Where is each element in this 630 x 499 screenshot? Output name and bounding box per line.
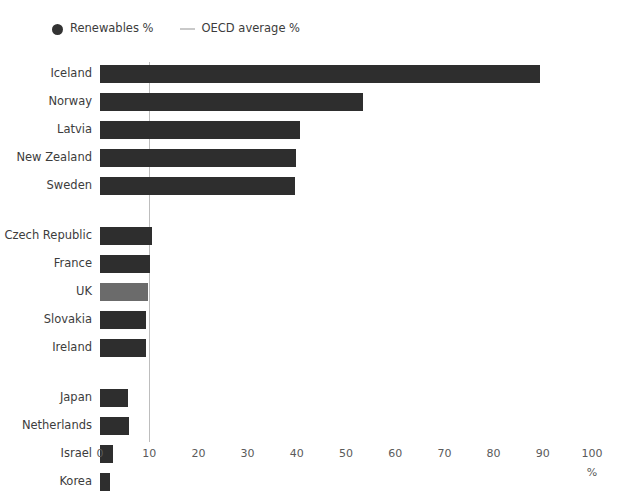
chart-row[interactable]: Slovakia: [0, 306, 630, 334]
category-label: New Zealand: [0, 148, 92, 167]
x-axis-unit-label: %: [587, 466, 597, 479]
bar[interactable]: [100, 177, 295, 195]
bar[interactable]: [100, 149, 296, 167]
category-label: Slovakia: [0, 310, 92, 329]
chart-row[interactable]: Ireland: [0, 334, 630, 362]
chart-row[interactable]: Japan: [0, 384, 630, 412]
x-axis-tick: 80: [487, 447, 501, 460]
bar[interactable]: [100, 255, 150, 273]
x-axis-tick: 10: [142, 447, 156, 460]
x-axis-tick: 40: [290, 447, 304, 460]
x-axis-tick: 70: [437, 447, 451, 460]
category-label: Sweden: [0, 176, 92, 195]
chart-row[interactable]: Latvia: [0, 116, 630, 144]
x-axis-tick: 60: [388, 447, 402, 460]
x-axis-tick: 20: [191, 447, 205, 460]
chart-row[interactable]: Norway: [0, 88, 630, 116]
bar[interactable]: [100, 417, 129, 435]
category-label: UK: [0, 282, 92, 301]
x-axis-tick: 90: [536, 447, 550, 460]
bar[interactable]: [100, 93, 363, 111]
category-label: Ireland: [0, 338, 92, 357]
chart-row[interactable]: France: [0, 250, 630, 278]
category-label: Japan: [0, 388, 92, 407]
category-label: Czech Republic: [0, 226, 92, 245]
bar[interactable]: [100, 339, 146, 357]
bar[interactable]: [100, 65, 540, 83]
category-label: Norway: [0, 92, 92, 111]
chart-row[interactable]: UK: [0, 278, 630, 306]
bar[interactable]: [100, 227, 152, 245]
category-label: France: [0, 254, 92, 273]
chart-row[interactable]: Iceland: [0, 60, 630, 88]
chart-page: Renewables % OECD average % Iceland Norw…: [0, 0, 630, 499]
bar[interactable]: [100, 121, 300, 139]
chart-row[interactable]: Korea: [0, 468, 630, 496]
category-label: Netherlands: [0, 416, 92, 435]
x-axis-tick: 100: [582, 447, 603, 460]
x-axis-tick: 30: [241, 447, 255, 460]
category-label: Korea: [0, 472, 92, 491]
bar[interactable]: [100, 389, 128, 407]
plot-area: Iceland Norway Latvia New Zealand Sweden: [0, 0, 630, 499]
bar[interactable]: [100, 473, 110, 491]
group-spacer: [0, 362, 630, 384]
x-axis-tick: 50: [339, 447, 353, 460]
bar-highlighted[interactable]: [100, 283, 148, 301]
chart-row[interactable]: New Zealand: [0, 144, 630, 172]
chart-row[interactable]: Czech Republic: [0, 222, 630, 250]
bar[interactable]: [100, 311, 146, 329]
group-spacer: [0, 200, 630, 222]
chart-row[interactable]: Sweden: [0, 172, 630, 200]
category-label: Iceland: [0, 64, 92, 83]
chart-row[interactable]: Netherlands: [0, 412, 630, 440]
x-axis: 0102030405060708090100: [0, 447, 630, 467]
x-axis-tick: 0: [97, 447, 104, 460]
category-label: Latvia: [0, 120, 92, 139]
bar-rows: Iceland Norway Latvia New Zealand Sweden: [0, 60, 630, 496]
